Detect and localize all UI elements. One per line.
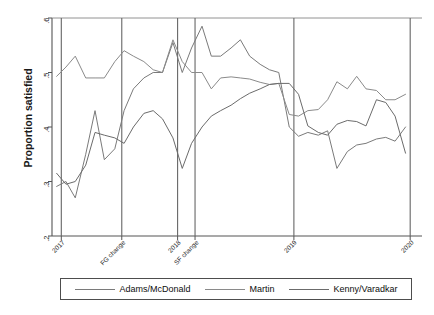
legend-entry-kenny-varadkar[interactable]: Kenny/Varadkar	[282, 284, 405, 294]
legend-line-swatch-icon	[289, 289, 329, 290]
legend-label: Kenny/Varadkar	[334, 284, 398, 294]
legend-label: Martin	[250, 284, 275, 294]
series-line-adams-mcdonald	[57, 26, 406, 198]
legend-entries: Adams/McDonaldMartinKenny/Varadkar	[61, 279, 411, 299]
series-line-kenny-varadkar	[57, 83, 406, 184]
legend-entry-adams-mcdonald[interactable]: Adams/McDonald	[68, 284, 198, 294]
legend-line-swatch-icon	[205, 289, 245, 290]
plot-area	[0, 0, 434, 315]
legend-line-swatch-icon	[75, 289, 115, 290]
chart-legend: Adams/McDonaldMartinKenny/Varadkar	[60, 278, 412, 300]
legend-entry-martin[interactable]: Martin	[198, 284, 282, 294]
chart-figure: Proportion satisfied .6.5.4.3.2 2017FG c…	[0, 0, 434, 315]
legend-label: Adams/McDonald	[120, 284, 191, 294]
